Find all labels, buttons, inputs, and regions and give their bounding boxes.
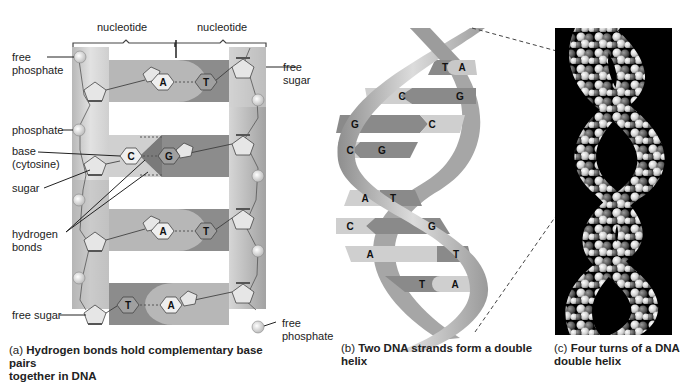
panel-c-caption: (c) Four turns of a DNA double helix [554,342,693,368]
